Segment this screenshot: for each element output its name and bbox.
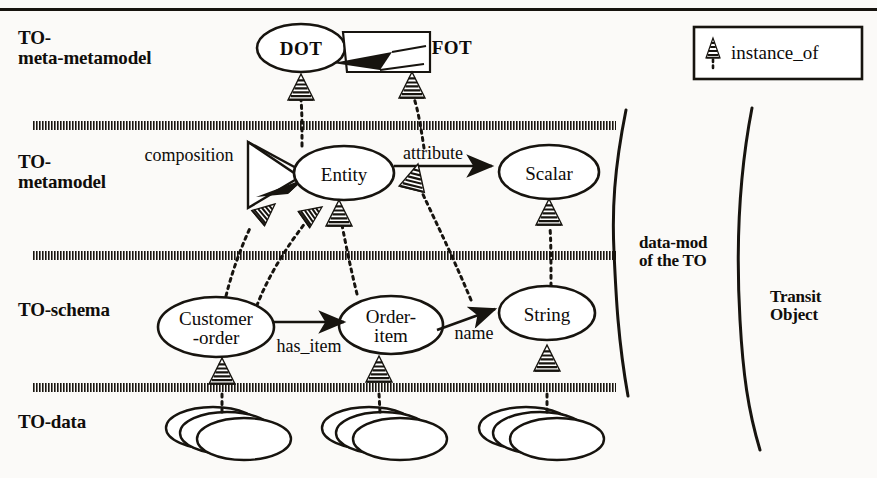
instance-of-arrow-data-string	[534, 345, 560, 412]
node-label-string: String	[524, 305, 570, 324]
node-label-dot: DOT	[280, 39, 323, 58]
diagram-page: TO- meta-metamodel TO- metamodel TO-sche…	[0, 0, 877, 478]
layer-label-meta-metamodel: TO- meta-metamodel	[18, 28, 151, 67]
brace-transit-object	[738, 108, 760, 450]
instance-of-arrow-customer-entity	[226, 196, 281, 296]
instance-of-arrow-orderitem-entity	[326, 200, 357, 294]
separator-metameta-metamodel	[33, 121, 616, 130]
node-fot-relation[interactable]	[333, 32, 430, 72]
edge-label-has-item: has_item	[277, 336, 342, 357]
layer-label-schema: TO-schema	[18, 300, 110, 320]
instance-of-arrow-string-scalar	[536, 199, 562, 286]
brace-label-data-mod: data-mod of the TO	[639, 234, 707, 270]
brace-label-transit-object: Transit Object	[770, 288, 821, 324]
separator-metamodel-schema	[33, 251, 616, 260]
node-label-entity: Entity	[321, 165, 367, 184]
instance-of-arrow-entity-dot	[288, 74, 314, 146]
node-label-order-item: Order- item	[366, 307, 416, 345]
diagram-canvas	[0, 0, 877, 478]
legend-label-instance-of: instance_of	[731, 42, 819, 64]
separator-schema-data	[33, 383, 616, 392]
layer-label-data: TO-data	[18, 412, 86, 432]
instance-of-arrow-attribute-fot	[399, 72, 425, 148]
edge-label-attribute: attribute	[403, 143, 463, 164]
instance-of-arrow-name-composition	[399, 161, 471, 300]
node-label-fot: FOT	[432, 38, 473, 57]
layer-label-metamodel: TO- metamodel	[18, 152, 106, 191]
brace-data-mod	[613, 110, 628, 396]
node-label-customer-order: Customer -order	[179, 309, 253, 347]
data-cluster-order-item[interactable]	[322, 407, 447, 460]
node-label-scalar: Scalar	[525, 164, 572, 183]
edge-label-name: name	[455, 323, 494, 344]
data-cluster-customer-order[interactable]	[166, 407, 291, 460]
data-cluster-string[interactable]	[479, 407, 604, 460]
edge-label-composition: composition	[145, 145, 234, 166]
